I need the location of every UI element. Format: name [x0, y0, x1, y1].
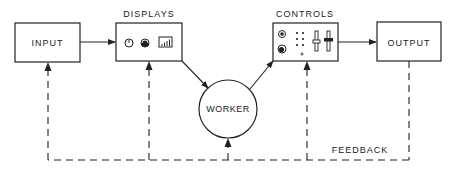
meter-gauge-icon [141, 39, 149, 47]
feedback-arrowheads [45, 61, 311, 147]
indicator-dots-icon [296, 32, 304, 55]
displays-label: DISPLAYS [123, 9, 174, 19]
arrow-displays-worker [182, 61, 208, 88]
dial-knob-icon [278, 45, 286, 53]
arrow-worker-controls [250, 61, 273, 89]
slider-icon [313, 31, 320, 51]
feedback-label: FEEDBACK [332, 145, 389, 155]
bar-graph-icon [159, 37, 172, 47]
input-label: INPUT [32, 38, 64, 48]
system-diagram: INPUT DISPLAYS WORKER CONTROLS [0, 0, 453, 169]
slider-icon [324, 31, 333, 51]
output-node: OUTPUT [377, 22, 441, 61]
output-label: OUTPUT [388, 38, 431, 48]
worker-node: WORKER [199, 80, 257, 138]
controls-label: CONTROLS [276, 9, 334, 19]
flow-arrows [80, 42, 376, 89]
controls-node: CONTROLS [273, 9, 338, 61]
input-node: INPUT [15, 23, 80, 62]
worker-label: WORKER [206, 104, 250, 114]
displays-node: DISPLAYS [116, 9, 182, 61]
knob-icon [279, 31, 286, 38]
dial-gauge-icon [125, 39, 133, 47]
